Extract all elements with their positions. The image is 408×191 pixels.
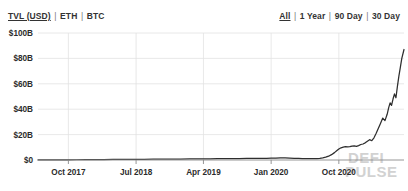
y-tick-label: $40B xyxy=(13,105,33,114)
y-tick-label: $60B xyxy=(13,80,33,89)
range-separator-1: | xyxy=(294,11,296,21)
x-tick-label: Jan 2020 xyxy=(254,168,289,177)
metric-toggle-group: TVL (USD) | ETH | BTC xyxy=(8,11,105,21)
range-toggle-90-day[interactable]: 90 Day xyxy=(335,11,363,21)
range-toggle-1-year[interactable]: 1 Year xyxy=(300,11,326,21)
y-gridlines xyxy=(38,33,404,135)
metric-separator-2: | xyxy=(81,11,83,21)
y-axis-tick-labels: $0$20B$40B$60B$80B$100B xyxy=(9,29,34,165)
y-tick-label: $0 xyxy=(24,156,34,165)
range-toggle-group: All | 1 Year | 90 Day | 30 Day xyxy=(279,11,400,21)
defipulse-tvl-chart-widget: TVL (USD) | ETH | BTC All | 1 Year | 90 … xyxy=(0,0,408,191)
range-toggle-30-day[interactable]: 30 Day xyxy=(372,11,400,21)
tvl-line-chart[interactable]: DEFI PULSE $0$20B$40B$60B$80B$100B Oct 2… xyxy=(0,28,408,191)
metric-toggle-tvl-usd[interactable]: TVL (USD) xyxy=(8,11,51,21)
x-axis-tick-labels: Oct 2017Jul 2018Apr 2019Jan 2020Oct 2020 xyxy=(51,168,356,177)
x-tick-label: Apr 2019 xyxy=(186,168,221,177)
y-tick-label: $80B xyxy=(13,54,33,63)
y-tick-label: $20B xyxy=(13,131,33,140)
chart-header: TVL (USD) | ETH | BTC All | 1 Year | 90 … xyxy=(0,11,408,27)
x-gridlines xyxy=(68,33,338,160)
x-tick-label: Oct 2017 xyxy=(51,168,86,177)
range-separator-2: | xyxy=(329,11,331,21)
chart-plot-area[interactable]: DEFI PULSE $0$20B$40B$60B$80B$100B Oct 2… xyxy=(0,28,408,191)
y-tick-label: $100B xyxy=(9,29,33,38)
x-tick-label: Jul 2018 xyxy=(120,168,153,177)
x-axis-tickmarks xyxy=(68,160,338,164)
metric-toggle-eth[interactable]: ETH xyxy=(60,11,77,21)
range-toggle-all[interactable]: All xyxy=(279,11,290,21)
metric-separator-1: | xyxy=(54,11,56,21)
metric-toggle-btc[interactable]: BTC xyxy=(87,11,105,21)
x-tick-label: Oct 2020 xyxy=(322,168,357,177)
range-separator-3: | xyxy=(366,11,368,21)
tvl-series-line xyxy=(38,50,404,160)
